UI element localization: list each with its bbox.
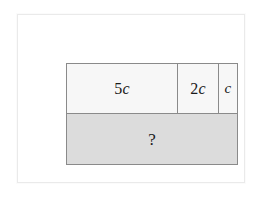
variable-c: c [225, 80, 232, 96]
variable-c: c [122, 80, 129, 97]
tape-cell-5c-label: 5c [114, 81, 130, 97]
tape-row-bottom: ? [66, 113, 238, 165]
tape-diagram: 5c 2c c ? [66, 63, 238, 165]
tape-row-top: 5c 2c c [66, 63, 238, 113]
tape-cell-5c: 5c [67, 64, 177, 113]
page-frame: 5c 2c c ? [17, 14, 245, 183]
tape-cell-2c-label: 2c [190, 81, 206, 97]
tape-cell-2c: 2c [177, 64, 218, 113]
figure-canvas: 5c 2c c ? [0, 0, 263, 200]
unknown-total-label: ? [148, 131, 156, 148]
tape-cell-c: c [218, 64, 237, 113]
variable-c: c [198, 80, 205, 97]
tape-cell-c-label: c [225, 81, 232, 96]
